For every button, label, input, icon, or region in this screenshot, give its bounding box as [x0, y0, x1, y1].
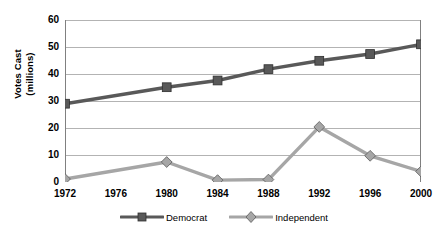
x-axis-tick-label: 1976	[91, 188, 141, 200]
x-axis-tick-label: 1972	[40, 188, 90, 200]
y-axis-tick-label: 20	[35, 123, 59, 133]
y-axis-tick-label: 0	[35, 177, 59, 187]
data-point-marker	[416, 166, 421, 177]
x-axis-tick-label: 1996	[345, 188, 395, 200]
y-axis-tick-label: 50	[35, 42, 59, 52]
data-point-marker	[162, 83, 171, 92]
x-axis-tick-label: 1980	[142, 188, 192, 200]
data-point-marker	[213, 76, 222, 85]
legend-item-independent[interactable]: Independent	[229, 210, 328, 224]
legend-swatch-square-icon	[120, 210, 164, 224]
x-axis-tick-labels: 19721976198019841988199219962000	[65, 188, 421, 202]
y-axis-tick-label: 10	[35, 150, 59, 160]
plot-area	[65, 20, 421, 182]
chart-legend: DemocratIndependent	[0, 210, 448, 224]
legend-swatch-diamond-icon	[229, 210, 273, 224]
plot-svg	[65, 20, 421, 182]
y-axis-title-line-1: Votes Cast	[12, 14, 24, 134]
legend-label: Democrat	[166, 212, 207, 223]
x-axis-tick-label: 1984	[193, 188, 243, 200]
legend-label: Independent	[275, 212, 328, 223]
data-point-marker	[315, 56, 324, 65]
x-axis-tick-label: 1988	[243, 188, 293, 200]
legend-item-democrat[interactable]: Democrat	[120, 210, 207, 224]
data-point-marker	[161, 157, 172, 168]
data-point-marker	[417, 40, 421, 49]
data-point-marker	[264, 65, 273, 74]
votes-cast-line-chart: Votes Cast (millions) 0102030405060 1972…	[0, 0, 448, 240]
y-axis-tick-label: 40	[35, 69, 59, 79]
data-point-marker	[366, 50, 375, 59]
data-point-marker	[65, 99, 69, 108]
x-axis-tick-label: 1992	[294, 188, 344, 200]
data-point-marker	[212, 175, 223, 182]
y-axis-tick-labels: 0102030405060	[33, 0, 59, 240]
y-axis-tick-label: 30	[35, 96, 59, 106]
data-point-marker	[65, 174, 70, 182]
y-axis-tick-label: 60	[35, 15, 59, 25]
x-axis-tick-label: 2000	[396, 188, 446, 200]
